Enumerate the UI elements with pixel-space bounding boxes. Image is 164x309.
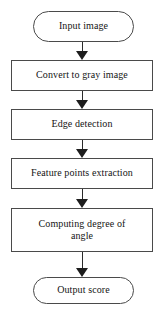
flow-node-feature-points-extraction: Feature points extraction: [11, 158, 153, 189]
flow-node-computing-degree-of-angle: Computing degree of angle: [11, 208, 153, 252]
flow-node-input-image: Input image: [33, 11, 134, 42]
flow-arrow-convert-to-gray-image-to-edge-detection: [76, 91, 89, 109]
flow-arrow-input-image-to-convert-to-gray-image: [76, 42, 89, 60]
flow-node-label: Convert to gray image: [33, 69, 131, 82]
flow-node-output-score: Output score: [33, 277, 134, 304]
flow-node-convert-to-gray-image: Convert to gray image: [11, 60, 153, 91]
flow-node-label: Input image: [56, 20, 111, 33]
flowchart-diagram: Input image Convert to gray image Edge d…: [0, 0, 164, 309]
flow-node-label: Computing degree of angle: [36, 218, 129, 243]
arrow-head-icon: [76, 199, 88, 208]
arrow-head-icon: [76, 268, 88, 277]
arrow-head-icon: [76, 51, 88, 60]
arrow-stem: [82, 252, 83, 269]
arrow-head-icon: [76, 100, 88, 109]
flow-arrow-edge-detection-to-feature-points-extraction: [76, 140, 89, 158]
flow-node-edge-detection: Edge detection: [11, 109, 153, 140]
flow-node-label: Edge detection: [48, 118, 115, 131]
flow-arrow-feature-points-extraction-to-computing-degree-of-angle: [76, 189, 89, 208]
flow-node-label: Feature points extraction: [28, 167, 136, 180]
flow-arrow-computing-degree-of-angle-to-output-score: [76, 252, 89, 277]
arrow-head-icon: [76, 149, 88, 158]
flow-node-label: Output score: [54, 284, 113, 297]
